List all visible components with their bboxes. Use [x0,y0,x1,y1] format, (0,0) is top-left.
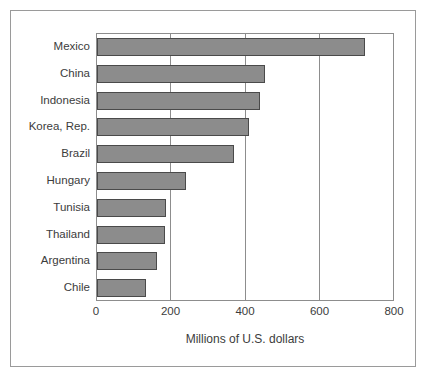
y-axis-label-china: China [4,67,90,79]
bar-mexico [97,38,365,56]
bar-row [97,275,393,302]
bar-row [97,61,393,88]
bar-chile [97,279,146,297]
bar-row [97,168,393,195]
y-axis-label-brazil: Brazil [4,147,90,159]
y-axis-label-hungary: Hungary [4,174,90,186]
y-axis-category-labels: Mexico China Indonesia Korea, Rep. Brazi… [0,33,90,301]
y-axis-label-mexico: Mexico [4,40,90,52]
bar-row [97,114,393,141]
bar-hungary [97,172,186,190]
bar-indonesia [97,92,260,110]
bar-brazil [97,145,234,163]
bar-korea-rep [97,118,249,136]
x-axis-title: Millions of U.S. dollars [96,332,394,346]
bar-row [97,222,393,249]
x-tick-label-600: 600 [310,305,329,318]
x-tick-label-400: 400 [235,305,254,318]
bar-row [97,195,393,222]
bar-china [97,65,265,83]
bar-row [97,248,393,275]
y-axis-label-argentina: Argentina [4,254,90,266]
bar-row [97,88,393,115]
bar-argentina [97,252,157,270]
y-axis-label-chile: Chile [4,281,90,293]
plot-area [96,33,394,301]
x-tick-label-0: 0 [93,305,99,318]
x-axis-ticks: 0 200 400 600 800 [96,301,394,321]
y-axis-label-thailand: Thailand [4,228,90,240]
bar-row [97,34,393,61]
y-axis-label-tunisia: Tunisia [4,201,90,213]
bar-row [97,141,393,168]
y-axis-label-indonesia: Indonesia [4,94,90,106]
x-tick-label-800: 800 [384,305,403,318]
bar-thailand [97,226,165,244]
bar-tunisia [97,199,166,217]
y-axis-label-korea-rep: Korea, Rep. [4,120,90,132]
chart-figure: Mexico China Indonesia Korea, Rep. Brazi… [0,0,429,389]
x-tick-label-200: 200 [161,305,180,318]
